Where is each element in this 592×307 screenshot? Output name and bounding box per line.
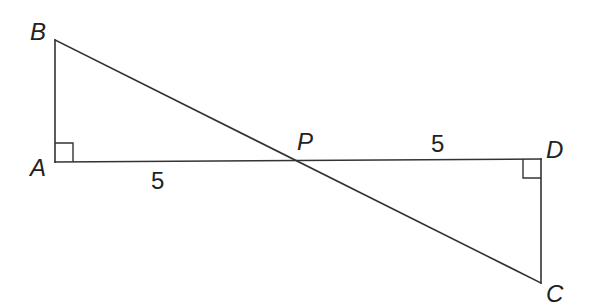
right-angle-marker-d (523, 159, 541, 178)
length-label-ap: 5 (151, 167, 164, 194)
point-label-p: P (297, 128, 313, 155)
point-label-a: A (28, 154, 46, 181)
right-angle-marker-a (55, 143, 73, 162)
point-label-c: C (546, 280, 564, 307)
point-label-b: B (30, 18, 46, 45)
geometry-diagram: B A P D C 5 5 (0, 0, 592, 307)
length-label-pd: 5 (431, 130, 444, 157)
point-label-d: D (546, 136, 563, 163)
